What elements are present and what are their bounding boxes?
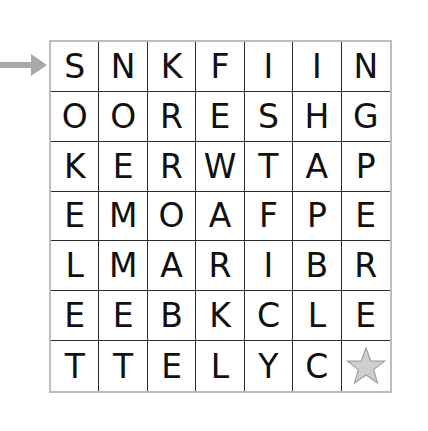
star-icon — [346, 346, 386, 386]
grid-cell-r1-c3[interactable]: K — [148, 42, 196, 92]
grid-cell-r3-c6[interactable]: A — [293, 142, 341, 192]
grid-cell-r6-c6[interactable]: L — [293, 291, 341, 341]
grid-cell-r5-c2[interactable]: M — [99, 241, 147, 291]
grid-cell-r4-c4[interactable]: A — [196, 192, 244, 242]
grid-cell-r3-c4[interactable]: W — [196, 142, 244, 192]
grid-cell-r2-c5[interactable]: S — [245, 92, 293, 142]
grid-cell-r1-c5[interactable]: I — [245, 42, 293, 92]
grid-cell-r6-c1[interactable]: E — [51, 291, 99, 341]
grid-cell-r7-c5[interactable]: Y — [245, 341, 293, 391]
grid-cell-r5-c3[interactable]: A — [148, 241, 196, 291]
grid-cell-r7-c1[interactable]: T — [51, 341, 99, 391]
grid-cell-r4-c7[interactable]: E — [342, 192, 390, 242]
grid-cell-r3-c1[interactable]: K — [51, 142, 99, 192]
grid-cell-r3-c3[interactable]: R — [148, 142, 196, 192]
grid-cell-r2-c7[interactable]: G — [342, 92, 390, 142]
grid-cell-r4-c1[interactable]: E — [51, 192, 99, 242]
grid-cell-r1-c7[interactable]: N — [342, 42, 390, 92]
grid-cell-r4-c5[interactable]: F — [245, 192, 293, 242]
grid-cell-r7-c7[interactable] — [342, 341, 390, 391]
grid-cell-r7-c6[interactable]: C — [293, 341, 341, 391]
grid-cell-r2-c3[interactable]: R — [148, 92, 196, 142]
grid-cell-r2-c4[interactable]: E — [196, 92, 244, 142]
grid-cell-r1-c4[interactable]: F — [196, 42, 244, 92]
grid-cell-r7-c3[interactable]: E — [148, 341, 196, 391]
grid-cell-r6-c5[interactable]: C — [245, 291, 293, 341]
grid-cell-r1-c6[interactable]: I — [293, 42, 341, 92]
grid-cell-r2-c6[interactable]: H — [293, 92, 341, 142]
start-arrow-icon — [0, 54, 48, 76]
grid-cell-r5-c7[interactable]: R — [342, 241, 390, 291]
grid-cell-r3-c2[interactable]: E — [99, 142, 147, 192]
grid-cell-r6-c4[interactable]: K — [196, 291, 244, 341]
grid-cell-r3-c5[interactable]: T — [245, 142, 293, 192]
grid-cell-r4-c6[interactable]: P — [293, 192, 341, 242]
grid-cell-r1-c1[interactable]: S — [51, 42, 99, 92]
grid-cell-r4-c2[interactable]: M — [99, 192, 147, 242]
letter-grid: SNKFIINOORESHGKERWTAPEMOAFPELMARIBREEBKC… — [49, 40, 392, 393]
grid-cell-r7-c4[interactable]: L — [196, 341, 244, 391]
grid-cell-r2-c2[interactable]: O — [99, 92, 147, 142]
grid-cell-r6-c2[interactable]: E — [99, 291, 147, 341]
grid-cell-r2-c1[interactable]: O — [51, 92, 99, 142]
grid-cell-r5-c5[interactable]: I — [245, 241, 293, 291]
grid-cell-r4-c3[interactable]: O — [148, 192, 196, 242]
grid-cell-r5-c1[interactable]: L — [51, 241, 99, 291]
grid-cell-r5-c6[interactable]: B — [293, 241, 341, 291]
grid-cell-r1-c2[interactable]: N — [99, 42, 147, 92]
grid-cell-r7-c2[interactable]: T — [99, 341, 147, 391]
grid-cell-r6-c3[interactable]: B — [148, 291, 196, 341]
grid-cell-r3-c7[interactable]: P — [342, 142, 390, 192]
grid-cell-r5-c4[interactable]: R — [196, 241, 244, 291]
grid-cell-r6-c7[interactable]: E — [342, 291, 390, 341]
